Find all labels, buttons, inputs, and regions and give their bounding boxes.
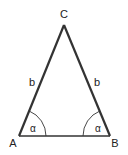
vertex-label-a: A (9, 137, 17, 149)
angle-label-a: α (30, 123, 36, 134)
side-bc (64, 25, 110, 136)
angle-label-b: α (95, 123, 101, 134)
side-label-right: b (94, 76, 100, 88)
vertex-label-c: C (60, 8, 68, 20)
side-label-left: b (29, 76, 35, 88)
vertex-label-b: B (111, 137, 118, 149)
triangle-diagram: C A B b b α α (0, 0, 128, 155)
side-ac (19, 25, 64, 136)
